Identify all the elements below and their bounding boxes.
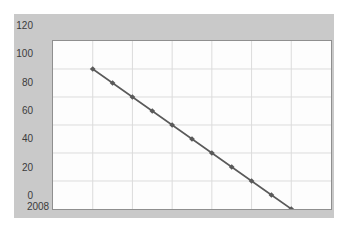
y-tick-label: 80: [3, 78, 33, 88]
y-tick-label: 60: [3, 106, 33, 116]
y-tick-label: 100: [3, 49, 33, 59]
line-series: [53, 41, 331, 209]
y-tick-label: 20: [3, 163, 33, 173]
plot-area: [52, 40, 332, 210]
chart-screenshot: 020406080100120 200820102012201420162018…: [0, 0, 348, 228]
y-tick-label: 120: [3, 21, 33, 31]
chart-card: 020406080100120 200820102012201420162018…: [14, 14, 334, 218]
y-tick-label: 0: [3, 191, 33, 201]
y-tick-label: 40: [3, 134, 33, 144]
